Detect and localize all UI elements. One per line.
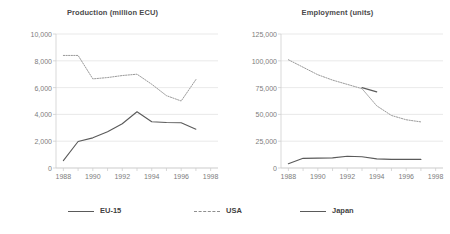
- plot-svg-production: [56, 34, 218, 168]
- x-tick-label: 1994: [369, 173, 385, 180]
- series-line-usa: [63, 55, 196, 101]
- legend-line-icon-usa: [194, 211, 220, 212]
- legend-line-icon-eu-15: [68, 211, 94, 212]
- chart-title-production: Production (million ECU): [0, 8, 225, 18]
- figure-root: Production (million ECU) 02,0004,0006,00…: [0, 0, 450, 234]
- plot-area-production: [56, 34, 218, 168]
- plot-area-employment: [281, 34, 443, 168]
- x-tick-label: 1994: [144, 173, 160, 180]
- legend-label-japan: Japan: [332, 207, 354, 215]
- legend-label-eu-15: EU-15: [100, 207, 121, 215]
- y-tick-label: 125,000: [252, 31, 277, 38]
- y-tick-label: 8,000: [34, 57, 52, 64]
- y-tick-label: 75,000: [256, 84, 277, 91]
- x-tick-label: 1988: [56, 173, 72, 180]
- series-line-eu-15: [63, 112, 196, 161]
- y-tick-label: 100,000: [252, 57, 277, 64]
- y-tick-label: 6,000: [34, 84, 52, 91]
- y-tick-label: 2,000: [34, 138, 52, 145]
- chart-panel-employment: Employment (units) 025,00050,00075,00010…: [225, 0, 450, 196]
- y-tick-label: 50,000: [256, 111, 277, 118]
- chart-panel-production: Production (million ECU) 02,0004,0006,00…: [0, 0, 225, 196]
- figure-legend: EU-15 USA Japan: [0, 205, 450, 225]
- x-tick-label: 1988: [281, 173, 297, 180]
- x-tick-label: 1996: [398, 173, 414, 180]
- plot-svg-employment: [281, 34, 443, 168]
- y-axis-labels-employment: 025,00050,00075,000100,000125,000: [225, 34, 277, 168]
- x-axis-labels-employment: 198819901992199419961998: [281, 173, 443, 185]
- legend-line-icon-japan: [300, 211, 326, 212]
- legend-item-japan: Japan: [300, 205, 354, 217]
- y-tick-label: 0: [48, 165, 52, 172]
- x-tick-label: 1996: [173, 173, 189, 180]
- x-tick-label: 1998: [203, 173, 219, 180]
- y-tick-label: 25,000: [256, 138, 277, 145]
- y-tick-label: 0: [273, 165, 277, 172]
- legend-label-usa: USA: [226, 207, 242, 215]
- x-tick-label: 1990: [310, 173, 326, 180]
- x-tick-label: 1990: [85, 173, 101, 180]
- chart-title-employment: Employment (units): [225, 8, 450, 18]
- y-tick-label: 4,000: [34, 111, 52, 118]
- legend-item-eu-15: EU-15: [68, 205, 121, 217]
- series-line-usa: [288, 60, 421, 122]
- x-axis-labels-production: 198819901992199419961998: [56, 173, 218, 185]
- y-axis-labels-production: 02,0004,0006,0008,00010,000: [0, 34, 52, 168]
- x-tick-label: 1992: [339, 173, 355, 180]
- y-tick-label: 10,000: [31, 31, 52, 38]
- series-line-japan: [288, 156, 421, 164]
- legend-item-usa: USA: [194, 205, 242, 217]
- x-tick-label: 1998: [428, 173, 444, 180]
- x-tick-label: 1992: [114, 173, 130, 180]
